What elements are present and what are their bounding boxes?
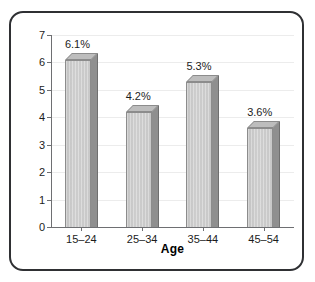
bar-front-face [186, 82, 212, 227]
x-axis-line [51, 227, 294, 228]
bar-front-face [126, 112, 152, 227]
y-tick-label: 3 [39, 139, 45, 150]
y-tick-mark [47, 117, 51, 118]
x-tick-mark [81, 227, 82, 231]
bar[interactable] [65, 60, 98, 227]
y-tick-mark [47, 172, 51, 173]
bar-side-face [152, 105, 159, 227]
y-tick-label: 5 [39, 84, 45, 95]
x-axis-title: Age [51, 242, 294, 256]
y-tick-mark [47, 200, 51, 201]
y-tick-mark [47, 227, 51, 228]
bar[interactable] [186, 82, 219, 227]
y-tick-label: 2 [39, 167, 45, 178]
y-tick-mark [47, 90, 51, 91]
bar[interactable] [247, 128, 280, 227]
y-axis-line [51, 35, 52, 227]
bar-side-face [212, 75, 219, 227]
chart-frame: 01234567 6.1%4.2%5.3%3.6% 15–2425–3435–4… [9, 11, 304, 271]
bar-value-label: 5.3% [186, 61, 226, 72]
y-tick-label: 7 [39, 30, 45, 41]
y-tick-label: 6 [39, 57, 45, 68]
y-tick-label: 4 [39, 112, 45, 123]
bar-value-label: 6.1% [65, 39, 105, 50]
bar-front-face [247, 128, 273, 227]
y-tick-label: 1 [39, 194, 45, 205]
bar-side-face [91, 53, 98, 227]
bar-value-label: 3.6% [247, 107, 287, 118]
y-tick-mark [47, 145, 51, 146]
bar-value-label: 4.2% [126, 91, 166, 102]
gridline [52, 35, 294, 36]
bar[interactable] [126, 112, 159, 227]
y-tick-label: 0 [39, 222, 45, 233]
y-tick-mark [47, 62, 51, 63]
y-tick-mark [47, 35, 51, 36]
x-tick-mark [264, 227, 265, 231]
bar-front-face [65, 60, 91, 227]
x-tick-mark [142, 227, 143, 231]
plot-area: 01234567 6.1%4.2%5.3%3.6% 15–2425–3435–4… [51, 35, 294, 227]
x-tick-mark [203, 227, 204, 231]
bar-side-face [273, 121, 280, 227]
